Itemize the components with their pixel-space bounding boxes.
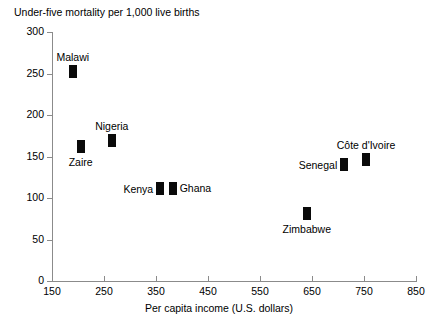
x-tick-mark [104, 276, 105, 282]
y-tick-label-text: 150 [4, 151, 44, 162]
data-point-marker[interactable] [169, 182, 177, 195]
x-tick-mark [52, 276, 53, 282]
chart-title: Under-five mortality per 1,000 live birt… [14, 6, 200, 18]
y-tick-mark [47, 74, 53, 75]
y-tick-mark [47, 115, 53, 116]
y-tick-label-text: 50 [4, 234, 44, 245]
x-tick-mark [312, 276, 313, 282]
x-tick-label: 650 [289, 285, 335, 297]
y-tick-label: 300 [0, 26, 44, 37]
x-axis-line [52, 281, 417, 282]
y-tick-label: 50 [0, 234, 44, 245]
y-tick-label: 100 [0, 192, 44, 203]
x-tick-label: 850 [393, 285, 438, 297]
x-tick-label: 350 [133, 285, 179, 297]
x-tick-label: 550 [237, 285, 283, 297]
x-tick-label: 150 [29, 285, 75, 297]
x-tick-mark [416, 276, 417, 282]
data-point-marker[interactable] [362, 153, 370, 166]
y-tick-label-text: 100 [4, 192, 44, 203]
y-tick-label: 250 [0, 68, 44, 79]
y-tick-mark [47, 32, 53, 33]
y-tick-label-text: 250 [4, 68, 44, 79]
y-tick-mark [47, 240, 53, 241]
data-point-marker[interactable] [108, 134, 116, 147]
data-point-label: Nigeria [95, 120, 128, 132]
data-point-label: Zaire [69, 156, 93, 168]
data-point-marker[interactable] [340, 158, 348, 171]
data-point-marker[interactable] [156, 182, 164, 195]
y-tick-label: 200 [0, 109, 44, 120]
x-tick-label: 450 [185, 285, 231, 297]
x-tick-label: 750 [341, 285, 387, 297]
data-point-label: Kenya [123, 183, 153, 195]
y-tick-label-text: 300 [4, 26, 44, 37]
data-point-label: Zimbabwe [283, 223, 331, 235]
y-tick-mark [47, 198, 53, 199]
scatter-chart: Under-five mortality per 1,000 live birt… [0, 0, 438, 321]
x-tick-mark [364, 276, 365, 282]
data-point-label: Malawi [56, 51, 89, 63]
data-point-label: Ghana [180, 182, 212, 194]
x-axis-caption: Per capita income (U.S. dollars) [0, 302, 438, 314]
x-tick-mark [260, 276, 261, 282]
y-tick-label: 150 [0, 151, 44, 162]
x-tick-label: 250 [81, 285, 127, 297]
y-tick-label-text: 200 [4, 109, 44, 120]
data-point-marker[interactable] [77, 140, 85, 153]
data-point-marker[interactable] [303, 207, 311, 220]
x-tick-mark [156, 276, 157, 282]
data-point-label: Senegal [299, 159, 338, 171]
data-point-label: Côte d'Ivoire [337, 139, 396, 151]
data-point-marker[interactable] [69, 65, 77, 78]
y-tick-mark [47, 157, 53, 158]
x-tick-mark [208, 276, 209, 282]
